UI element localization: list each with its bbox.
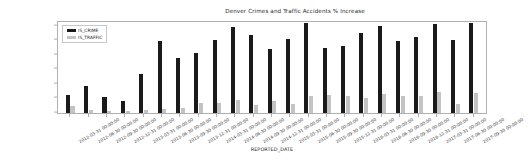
bar-is_crime: [469, 23, 473, 113]
bar-group: [153, 22, 171, 113]
plot-area: [57, 21, 487, 114]
bar-is_crime: [359, 33, 363, 113]
bar-is_crime: [341, 46, 345, 113]
y-tick-mark: [54, 82, 57, 83]
bar-is_crime: [286, 39, 290, 113]
y-tick-mark: [54, 97, 57, 98]
bar-is_crime: [323, 48, 327, 113]
x-tick-mark: [289, 114, 290, 117]
x-tick-mark: [253, 114, 254, 117]
bar-group: [410, 22, 428, 113]
bars-layer: [58, 22, 486, 113]
bar-is_traffic: [254, 105, 258, 113]
bar-is_traffic: [419, 96, 423, 113]
bar-is_traffic: [236, 100, 240, 113]
bar-is_crime: [249, 35, 253, 113]
y-tick-mark: [54, 39, 57, 40]
legend-swatch-icon-traffic: [67, 36, 76, 39]
bar-is_crime: [396, 41, 400, 113]
bar-is_crime: [304, 23, 308, 113]
bar-group: [391, 22, 409, 113]
x-tick-mark: [179, 114, 180, 117]
bar-is_crime: [213, 40, 217, 113]
bar-is_crime: [231, 27, 235, 113]
bar-is_crime: [451, 40, 455, 113]
bar-is_traffic: [181, 108, 185, 113]
bar-is_traffic: [401, 96, 405, 113]
legend-label-traffic: IS_TRAFFIC: [78, 35, 102, 40]
bar-group: [116, 22, 134, 113]
x-tick-mark: [399, 114, 400, 117]
legend-swatch-icon-crime: [67, 29, 76, 32]
bar-is_traffic: [327, 95, 331, 113]
bar-group: [244, 22, 262, 113]
bar-is_crime: [66, 95, 70, 113]
bar-is_crime: [414, 37, 418, 113]
bar-is_traffic: [309, 96, 313, 113]
bar-group: [299, 22, 317, 113]
bar-is_traffic: [126, 111, 130, 113]
chart-title: Denver Crimes and Traffic Accidents % In…: [41, 8, 528, 14]
bar-group: [373, 22, 391, 113]
bar-is_traffic: [437, 92, 441, 113]
x-tick-mark: [69, 114, 70, 117]
bar-is_traffic: [272, 101, 276, 113]
bar-is_crime: [102, 97, 106, 113]
x-tick-mark: [216, 114, 217, 117]
x-tick-mark: [124, 114, 125, 117]
bar-is_traffic: [199, 103, 203, 113]
legend-label-crime: IS_CRIME: [78, 28, 98, 33]
bar-is_crime: [176, 58, 180, 113]
x-tick-mark: [363, 114, 364, 117]
bar-group: [208, 22, 226, 113]
bar-is_crime: [84, 86, 88, 113]
bar-is_crime: [121, 101, 125, 113]
bar-group: [428, 22, 446, 113]
bar-is_crime: [158, 41, 162, 113]
y-tick-mark: [54, 24, 57, 25]
bar-is_traffic: [89, 110, 93, 113]
bar-group: [189, 22, 207, 113]
bar-is_traffic: [107, 111, 111, 113]
x-tick-mark: [161, 114, 162, 117]
x-tick-mark: [454, 114, 455, 117]
x-tick-mark: [308, 114, 309, 117]
bar-is_traffic: [217, 103, 221, 113]
x-tick-mark: [143, 114, 144, 117]
x-tick-mark: [106, 114, 107, 117]
bar-is_traffic: [382, 94, 386, 113]
x-tick-mark: [271, 114, 272, 117]
legend-item-traffic: IS_TRAFFIC: [67, 35, 103, 40]
bar-group: [465, 22, 483, 113]
bar-group: [263, 22, 281, 113]
bar-group: [134, 22, 152, 113]
bar-is_traffic: [456, 104, 460, 113]
bar-is_traffic: [70, 106, 74, 113]
bar-is_traffic: [346, 96, 350, 113]
legend-item-crime: IS_CRIME: [67, 28, 103, 33]
x-tick-mark: [88, 114, 89, 117]
bar-group: [226, 22, 244, 113]
y-tick-mark: [54, 53, 57, 54]
bar-group: [171, 22, 189, 113]
x-axis-title: REPORTED_DATE: [57, 146, 487, 152]
chart-legend: IS_CRIME IS_TRAFFIC: [62, 25, 107, 43]
bar-is_crime: [378, 26, 382, 113]
bar-is_crime: [139, 74, 143, 113]
bar-is_traffic: [144, 110, 148, 113]
x-tick-mark: [344, 114, 345, 117]
x-tick-mark: [381, 114, 382, 117]
bar-is_traffic: [291, 104, 295, 113]
bar-group: [355, 22, 373, 113]
bar-group: [281, 22, 299, 113]
x-tick-mark: [198, 114, 199, 117]
bar-is_traffic: [364, 98, 368, 113]
bar-group: [446, 22, 464, 113]
bar-is_crime: [194, 53, 198, 113]
x-tick-mark: [473, 114, 474, 117]
y-tick-mark: [54, 112, 57, 113]
x-tick-mark: [436, 114, 437, 117]
bar-group: [336, 22, 354, 113]
bar-is_crime: [268, 49, 272, 113]
